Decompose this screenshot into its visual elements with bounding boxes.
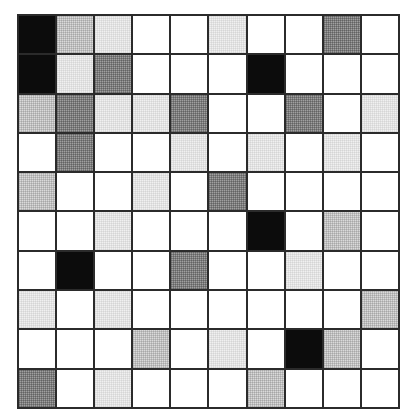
heatmap-cell — [57, 252, 95, 291]
heatmap-cell — [362, 16, 400, 55]
heatmap-cell — [133, 252, 171, 291]
heatmap-cell — [324, 134, 362, 173]
heatmap-cell — [209, 55, 247, 94]
heatmap-cell — [171, 252, 209, 291]
heatmap-cell — [95, 291, 133, 330]
heatmap-cell — [171, 95, 209, 134]
heatmap-cell — [209, 330, 247, 369]
heatmap-cell — [248, 55, 286, 94]
heatmap-cell — [286, 370, 324, 409]
heatmap-cell — [324, 252, 362, 291]
heatmap-cell — [248, 95, 286, 134]
heatmap-cell — [248, 173, 286, 212]
heatmap-cell — [95, 16, 133, 55]
heatmap-cell — [248, 370, 286, 409]
heatmap-cell — [362, 134, 400, 173]
heatmap-cell — [324, 291, 362, 330]
heatmap-cell — [286, 173, 324, 212]
heatmap-cell — [19, 212, 57, 251]
heatmap-cell — [209, 16, 247, 55]
heatmap-cell — [209, 95, 247, 134]
heatmap-cell — [362, 370, 400, 409]
heatmap-cell — [362, 95, 400, 134]
heatmap-cell — [209, 134, 247, 173]
heatmap-cell — [19, 55, 57, 94]
heatmap-cell — [57, 291, 95, 330]
heatmap-cell — [324, 370, 362, 409]
heatmap-cell — [362, 252, 400, 291]
heatmap-cell — [286, 95, 324, 134]
heatmap-cell — [19, 173, 57, 212]
heatmap-cell — [209, 370, 247, 409]
heatmap-cell — [133, 330, 171, 369]
heatmap-cell — [57, 95, 95, 134]
heatmap-cell — [95, 370, 133, 409]
heatmap-cell — [209, 252, 247, 291]
heatmap-cell — [57, 16, 95, 55]
heatmap-cell — [95, 330, 133, 369]
heatmap-cell — [209, 291, 247, 330]
heatmap-cell — [57, 370, 95, 409]
heatmap-cell — [95, 95, 133, 134]
heatmap-cell — [171, 370, 209, 409]
heatmap-cell — [324, 212, 362, 251]
heatmap-cell — [248, 252, 286, 291]
heatmap-cell — [362, 55, 400, 94]
heatmap-cell — [286, 16, 324, 55]
heatmap-cell — [171, 55, 209, 94]
heatmap-cell — [19, 370, 57, 409]
heatmap-cell — [95, 134, 133, 173]
heatmap-cell — [19, 291, 57, 330]
heatmap-cell — [209, 173, 247, 212]
heatmap-cell — [324, 55, 362, 94]
heatmap-cell — [324, 95, 362, 134]
heatmap-cell — [133, 173, 171, 212]
heatmap-cell — [362, 330, 400, 369]
heatmap-cell — [95, 173, 133, 212]
heatmap-grid — [17, 14, 400, 409]
heatmap-cell — [133, 134, 171, 173]
heatmap-cell — [324, 330, 362, 369]
heatmap-cell — [133, 95, 171, 134]
heatmap-cell — [95, 252, 133, 291]
heatmap-cell — [286, 252, 324, 291]
heatmap-cell — [57, 173, 95, 212]
heatmap-cell — [133, 370, 171, 409]
heatmap-cell — [19, 16, 57, 55]
heatmap-cell — [324, 16, 362, 55]
heatmap-cell — [209, 212, 247, 251]
heatmap-cell — [248, 212, 286, 251]
heatmap-cell — [133, 16, 171, 55]
heatmap-cell — [248, 16, 286, 55]
heatmap-cell — [57, 134, 95, 173]
heatmap-cell — [286, 291, 324, 330]
heatmap-cell — [133, 55, 171, 94]
heatmap-cell — [57, 330, 95, 369]
heatmap-cell — [19, 95, 57, 134]
heatmap-cell — [286, 134, 324, 173]
heatmap-cell — [171, 134, 209, 173]
heatmap-cell — [19, 252, 57, 291]
heatmap-cell — [19, 134, 57, 173]
heatmap-cell — [171, 16, 209, 55]
heatmap-cell — [171, 173, 209, 212]
heatmap-cell — [171, 212, 209, 251]
heatmap-cell — [19, 330, 57, 369]
heatmap-cell — [171, 330, 209, 369]
heatmap-cell — [171, 291, 209, 330]
heatmap-cell — [324, 173, 362, 212]
heatmap-cell — [57, 55, 95, 94]
heatmap-cell — [133, 291, 171, 330]
heatmap-cell — [248, 330, 286, 369]
heatmap-cell — [248, 134, 286, 173]
heatmap-cell — [286, 55, 324, 94]
heatmap-cell — [248, 291, 286, 330]
heatmap-cell — [362, 212, 400, 251]
heatmap-cell — [286, 330, 324, 369]
heatmap-cell — [57, 212, 95, 251]
heatmap-cell — [362, 173, 400, 212]
heatmap-cell — [133, 212, 171, 251]
heatmap-cell — [95, 55, 133, 94]
heatmap-cell — [286, 212, 324, 251]
heatmap-cell — [95, 212, 133, 251]
